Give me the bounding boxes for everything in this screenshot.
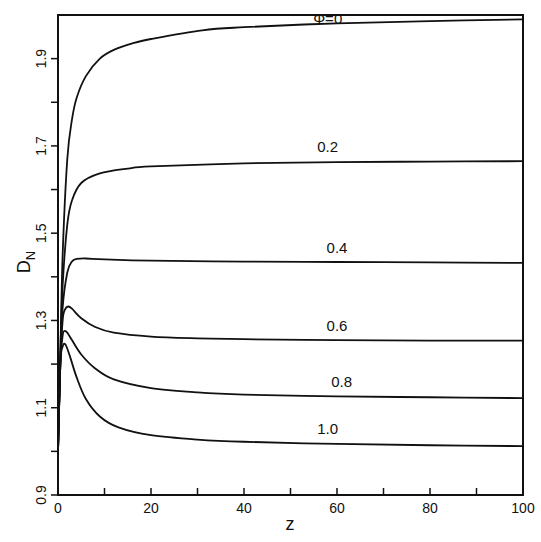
y-tick-label: 1.3 [33,311,49,331]
curve-0 [58,19,523,451]
curve-label: 0.8 [331,373,352,390]
y-axis-ticks: 0.91.11.31.51.71.9 [33,49,58,505]
x-tick-label: 80 [422,500,438,516]
curve-2 [58,258,523,451]
curve-label: Φ=0 [313,10,342,27]
plot-border [58,15,523,495]
curve-label: 0.6 [327,317,348,334]
y-tick-label: 1.1 [33,398,49,418]
curve-label: 0.4 [327,239,348,256]
plot-frame [58,15,523,495]
curve-label: 1.0 [317,420,338,437]
curve-label: 0.2 [317,138,338,155]
x-tick-label: 100 [511,500,535,516]
data-curves [58,19,523,451]
line-chart: 020406080100 0.91.11.31.51.71.9 Φ=00.20.… [0,0,541,542]
y-axis-title: DN [14,251,38,273]
x-axis-ticks: 020406080100 [54,488,535,516]
y-tick-label: 1.9 [33,49,49,69]
y-tick-label: 1.5 [33,223,49,243]
curve-1 [58,161,523,451]
x-tick-label: 60 [329,500,345,516]
y-tick-label: 1.7 [33,136,49,156]
x-tick-label: 0 [54,500,62,516]
y-axis-title-main: D [14,260,34,273]
y-axis-title-subscript: N [23,251,38,260]
curve-4 [58,331,523,452]
x-axis-title: z [286,514,295,534]
curve-labels: Φ=00.20.40.60.81.0 [313,10,352,437]
x-tick-label: 40 [236,500,252,516]
x-tick-label: 20 [143,500,159,516]
svg-text:DN: DN [14,251,38,273]
y-tick-label: 0.9 [33,485,49,505]
